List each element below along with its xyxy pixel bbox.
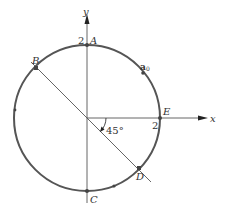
label-c: C <box>90 194 98 205</box>
x-axis-arrow-icon <box>198 116 208 121</box>
y-tick-label: 2 <box>78 35 84 46</box>
label-a: A <box>89 35 97 46</box>
point-left <box>14 109 17 112</box>
label-e: E <box>162 106 171 117</box>
point-bottom <box>112 184 115 187</box>
diagram-canvas: y x 2 A B C D E 2 a 0 45° <box>0 0 225 215</box>
label-b: B <box>31 55 39 66</box>
diagonal-line-bd <box>31 62 151 182</box>
point-e <box>158 116 162 120</box>
angle-label: 45° <box>106 125 124 136</box>
point-a <box>85 43 89 47</box>
label-a0-subscript: 0 <box>146 65 150 72</box>
x-axis-label: x <box>210 113 216 124</box>
point-b <box>34 66 38 70</box>
y-axis-label: y <box>82 6 89 17</box>
point-c <box>85 189 89 193</box>
x-tick-label: 2 <box>152 120 158 131</box>
point-d <box>137 166 141 170</box>
label-d: D <box>135 171 144 182</box>
